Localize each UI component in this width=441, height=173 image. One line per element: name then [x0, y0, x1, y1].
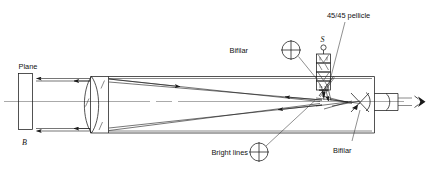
crosshair-circle-icon-bifilar-top	[281, 40, 301, 60]
observer-eye-icon	[415, 96, 426, 108]
telescope-tube	[91, 77, 375, 134]
bright-lines-label: Bright lines	[211, 148, 248, 157]
diagram-canvas: Plane B S 45/45 pellicle Bifilar Bright …	[0, 0, 441, 173]
leader-lines	[266, 22, 360, 146]
ray-bundle-tube	[109, 79, 360, 131]
mirror-letter-label: B	[22, 138, 27, 147]
optical-diagram: Plane B S 45/45 pellicle Bifilar Bright …	[0, 0, 441, 173]
bifilar-top-label: Bifilar	[230, 46, 249, 55]
objective-lens	[84, 77, 104, 134]
plane-mirror-label: Plane	[19, 62, 38, 71]
pellicle-label: 45/45 pellicle	[327, 11, 370, 20]
ray-bundle-left	[36, 79, 90, 132]
source-letter-label: S	[321, 35, 325, 44]
bifilar-bottom-label: Bifilar	[333, 146, 352, 155]
crosshair-circle-icon-bifilar-bottom	[249, 142, 269, 162]
